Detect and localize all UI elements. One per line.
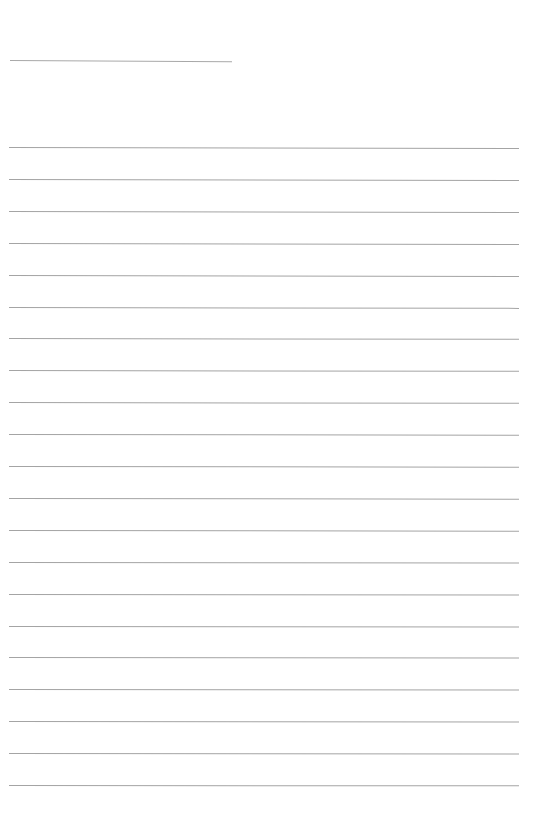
ruled-line	[9, 179, 519, 181]
ruled-line	[9, 530, 519, 532]
ruled-line	[9, 307, 519, 309]
ruled-line	[9, 466, 519, 468]
ruled-line	[9, 338, 519, 340]
ruled-line	[9, 689, 519, 690]
ruled-line	[9, 562, 519, 564]
ruled-line	[9, 243, 519, 245]
ruled-line	[9, 753, 519, 754]
ruled-line	[9, 594, 519, 596]
ruled-line	[9, 147, 519, 149]
ruled-line	[9, 626, 519, 628]
ruled-line	[9, 721, 519, 722]
ruled-line	[9, 370, 519, 372]
ruled-lines-area	[9, 0, 519, 830]
ruled-line	[9, 498, 519, 500]
ruled-line	[9, 275, 519, 277]
ruled-line	[9, 434, 519, 436]
ruled-line	[9, 657, 519, 658]
ruled-line	[9, 785, 519, 786]
ruled-line	[9, 211, 519, 213]
ruled-line	[9, 402, 519, 404]
